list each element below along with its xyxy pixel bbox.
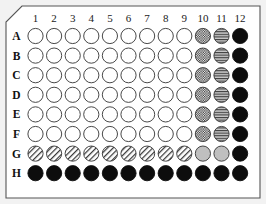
- well-C8[interactable]: [158, 68, 173, 83]
- well-A7[interactable]: [140, 28, 155, 43]
- well-F1[interactable]: [28, 126, 43, 141]
- well-C9[interactable]: [177, 68, 192, 83]
- well-A11[interactable]: [214, 28, 229, 43]
- well-H6[interactable]: [121, 166, 136, 181]
- well-E6[interactable]: [121, 107, 136, 122]
- well-E12[interactable]: [233, 107, 248, 122]
- well-F12[interactable]: [233, 126, 248, 141]
- well-G6[interactable]: [121, 146, 136, 161]
- well-D3[interactable]: [65, 87, 80, 102]
- well-D4[interactable]: [84, 87, 99, 102]
- well-C3[interactable]: [65, 68, 80, 83]
- well-E9[interactable]: [177, 107, 192, 122]
- well-E10[interactable]: [195, 107, 210, 122]
- well-E8[interactable]: [158, 107, 173, 122]
- well-B12[interactable]: [233, 48, 248, 63]
- well-C10[interactable]: [195, 68, 210, 83]
- well-E4[interactable]: [84, 107, 99, 122]
- well-F9[interactable]: [177, 126, 192, 141]
- well-H8[interactable]: [158, 166, 173, 181]
- well-F2[interactable]: [47, 126, 62, 141]
- well-F5[interactable]: [102, 126, 117, 141]
- well-A1[interactable]: [28, 28, 43, 43]
- well-A2[interactable]: [47, 28, 62, 43]
- well-H1[interactable]: [28, 166, 43, 181]
- well-F4[interactable]: [84, 126, 99, 141]
- well-G1[interactable]: [28, 146, 43, 161]
- well-E2[interactable]: [47, 107, 62, 122]
- well-B6[interactable]: [121, 48, 136, 63]
- well-A10[interactable]: [195, 28, 210, 43]
- well-C1[interactable]: [28, 68, 43, 83]
- well-A6[interactable]: [121, 28, 136, 43]
- well-D2[interactable]: [47, 87, 62, 102]
- well-H3[interactable]: [65, 166, 80, 181]
- column-header-3: 3: [70, 12, 76, 24]
- well-F8[interactable]: [158, 126, 173, 141]
- well-D8[interactable]: [158, 87, 173, 102]
- well-A12[interactable]: [233, 28, 248, 43]
- well-B9[interactable]: [177, 48, 192, 63]
- well-D6[interactable]: [121, 87, 136, 102]
- well-F3[interactable]: [65, 126, 80, 141]
- well-B7[interactable]: [140, 48, 155, 63]
- well-F11[interactable]: [214, 126, 229, 141]
- well-G4[interactable]: [84, 146, 99, 161]
- well-C2[interactable]: [47, 68, 62, 83]
- well-G9[interactable]: [177, 146, 192, 161]
- well-C6[interactable]: [121, 68, 136, 83]
- row-header-F: F: [13, 128, 20, 140]
- well-B5[interactable]: [102, 48, 117, 63]
- well-E5[interactable]: [102, 107, 117, 122]
- well-D11[interactable]: [214, 87, 229, 102]
- well-G10[interactable]: [195, 146, 210, 161]
- well-A9[interactable]: [177, 28, 192, 43]
- well-F6[interactable]: [121, 126, 136, 141]
- well-G12[interactable]: [233, 146, 248, 161]
- well-A5[interactable]: [102, 28, 117, 43]
- well-H2[interactable]: [47, 166, 62, 181]
- well-H11[interactable]: [214, 166, 229, 181]
- well-C12[interactable]: [233, 68, 248, 83]
- well-B4[interactable]: [84, 48, 99, 63]
- well-G5[interactable]: [102, 146, 117, 161]
- well-G3[interactable]: [65, 146, 80, 161]
- well-D1[interactable]: [28, 87, 43, 102]
- well-B3[interactable]: [65, 48, 80, 63]
- well-F7[interactable]: [140, 126, 155, 141]
- well-D12[interactable]: [233, 87, 248, 102]
- well-A3[interactable]: [65, 28, 80, 43]
- well-D10[interactable]: [195, 87, 210, 102]
- well-C5[interactable]: [102, 68, 117, 83]
- well-G8[interactable]: [158, 146, 173, 161]
- well-E1[interactable]: [28, 107, 43, 122]
- well-G2[interactable]: [47, 146, 62, 161]
- well-C4[interactable]: [84, 68, 99, 83]
- well-F10[interactable]: [195, 126, 210, 141]
- well-H12[interactable]: [233, 166, 248, 181]
- well-C7[interactable]: [140, 68, 155, 83]
- well-A4[interactable]: [84, 28, 99, 43]
- well-H9[interactable]: [177, 166, 192, 181]
- column-header-4: 4: [89, 12, 95, 24]
- well-B1[interactable]: [28, 48, 43, 63]
- microplate-svg: 123456789101112 ABCDEFGH: [0, 0, 266, 204]
- well-B8[interactable]: [158, 48, 173, 63]
- well-B11[interactable]: [214, 48, 229, 63]
- well-H4[interactable]: [84, 166, 99, 181]
- well-H7[interactable]: [140, 166, 155, 181]
- well-D5[interactable]: [102, 87, 117, 102]
- well-D9[interactable]: [177, 87, 192, 102]
- well-B2[interactable]: [47, 48, 62, 63]
- well-E11[interactable]: [214, 107, 229, 122]
- well-A8[interactable]: [158, 28, 173, 43]
- well-C11[interactable]: [214, 68, 229, 83]
- well-E7[interactable]: [140, 107, 155, 122]
- well-D7[interactable]: [140, 87, 155, 102]
- well-H5[interactable]: [102, 166, 117, 181]
- well-B10[interactable]: [195, 48, 210, 63]
- well-G7[interactable]: [140, 146, 155, 161]
- well-E3[interactable]: [65, 107, 80, 122]
- well-G11[interactable]: [214, 146, 229, 161]
- well-H10[interactable]: [195, 166, 210, 181]
